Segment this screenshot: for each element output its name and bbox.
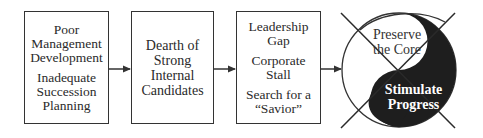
preserve-the-core-label: Preserve the Core (362, 27, 432, 57)
text-line: Preserve (362, 27, 432, 42)
text-line: Stimulate (376, 82, 451, 97)
text-line: Progress (376, 97, 451, 112)
connectors-and-yinyang (0, 0, 483, 138)
stimulate-progress-label: Stimulate Progress (376, 82, 451, 112)
text-line: the Core (362, 42, 432, 57)
